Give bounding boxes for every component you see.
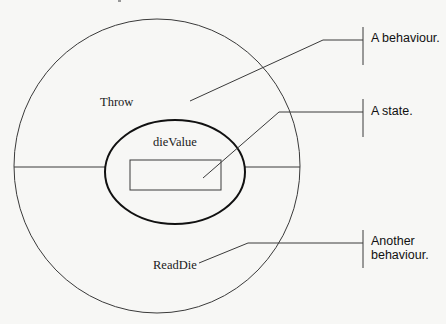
callout-leader-line — [190, 40, 363, 101]
callout-text-line1: Another — [371, 234, 415, 248]
state-value-box — [130, 160, 221, 190]
object-diagram: Throw dieValue ReadDie A behaviour. A st… — [0, 0, 446, 324]
callout-text: A behaviour. — [371, 31, 440, 45]
behaviour-label-readdie: ReadDie — [153, 258, 197, 272]
callout-text: A state. — [371, 104, 413, 118]
state-label-dievalue: dieValue — [153, 135, 197, 149]
callout-text-line2: behaviour. — [371, 248, 429, 262]
callout-leader-line — [203, 112, 363, 178]
page-bleed-mark — [118, 0, 121, 2]
callout-leader-line — [199, 243, 363, 263]
callout-another-behaviour: Another behaviour. — [199, 230, 429, 268]
behaviour-label-throw: Throw — [100, 95, 133, 109]
callout-state: A state. — [203, 99, 413, 178]
